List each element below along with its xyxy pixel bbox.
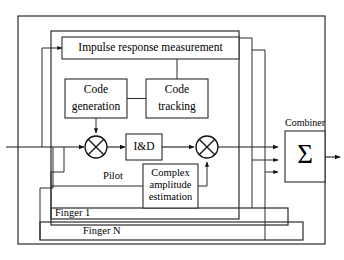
complex-amplitude-label-line1: Complex: [151, 167, 190, 178]
finger-n-output-wire: [265, 50, 278, 172]
pilot-label: Pilot: [103, 170, 123, 181]
rake-receiver-diagram: Finger 1 Finger N Impulse response measu…: [0, 0, 344, 260]
complex-amplitude-label-line2: amplitude: [150, 179, 192, 190]
input-to-impulse-wire: [42, 48, 62, 147]
finger-1-label: Finger 1: [55, 207, 90, 218]
combiner-label: Combiner: [285, 117, 326, 128]
finger-n-label: Finger N: [83, 225, 121, 236]
integrate-dump-label: I&D: [133, 140, 154, 152]
diagram-canvas: Finger 1 Finger N Impulse response measu…: [0, 0, 344, 260]
code-tracking-label-line1: Code: [165, 83, 189, 95]
code-tracking-label-line2: tracking: [158, 100, 196, 113]
code-generation-label-line2: generation: [72, 100, 121, 113]
code-generation-label-line1: Code: [84, 83, 108, 95]
combiner-sigma-symbol: Σ: [297, 139, 313, 169]
impulse-response-label: Impulse response measurement: [78, 41, 223, 54]
complex-amplitude-label-line3: estimation: [149, 191, 193, 202]
